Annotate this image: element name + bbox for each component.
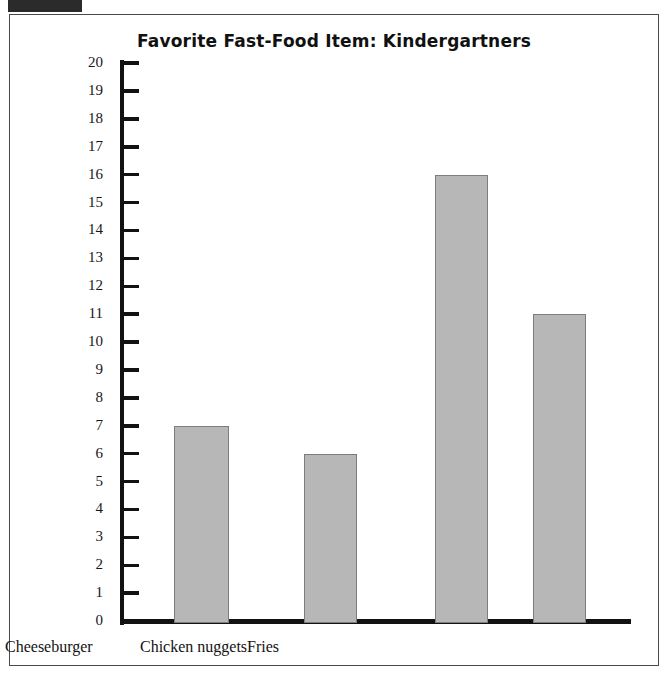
bar [435, 175, 488, 623]
y-tick-label: 16 [63, 167, 103, 182]
y-tick-label: 19 [63, 83, 103, 98]
y-tick-mark [124, 117, 139, 121]
y-tick-label: 5 [63, 474, 103, 489]
y-tick-mark [124, 508, 139, 512]
y-tick-mark [124, 201, 139, 205]
y-tick-mark [124, 285, 139, 289]
y-tick-mark [124, 480, 139, 484]
y-tick-label: 20 [63, 55, 103, 70]
y-tick-mark [124, 619, 139, 623]
y-tick-label: 6 [63, 446, 103, 461]
y-tick-label: 17 [63, 139, 103, 154]
y-tick-label: 15 [63, 195, 103, 210]
y-tick-label: 13 [63, 250, 103, 265]
bar [533, 314, 586, 623]
y-tick-mark [124, 173, 139, 177]
y-tick-label: 18 [63, 111, 103, 126]
y-tick-label: 4 [63, 501, 103, 516]
x-tick-label: Fries [247, 638, 279, 656]
y-tick-label: 9 [63, 362, 103, 377]
y-tick-mark [124, 536, 139, 540]
corner-tab-marker [8, 0, 82, 12]
y-tick-mark [124, 396, 139, 400]
y-tick-mark [124, 312, 139, 316]
y-tick-mark [124, 89, 139, 93]
y-tick-label: 10 [63, 334, 103, 349]
y-tick-mark [124, 424, 139, 428]
y-tick-mark [124, 368, 139, 372]
y-tick-label: 3 [63, 529, 103, 544]
y-tick-mark [124, 340, 139, 344]
y-tick-mark [124, 564, 139, 568]
x-tick-label: Chicken nuggets [140, 638, 247, 656]
y-tick-label: 1 [63, 585, 103, 600]
x-tick-label: Cheeseburger [5, 638, 93, 656]
y-tick-mark [124, 257, 139, 261]
chart-figure-frame: Favorite Fast-Food Item: Kindergartners … [9, 14, 659, 666]
y-tick-mark [124, 591, 139, 595]
y-tick-label: 7 [63, 418, 103, 433]
y-tick-label: 8 [63, 390, 103, 405]
y-tick-mark [124, 61, 139, 65]
bar [304, 454, 357, 623]
bar [174, 426, 229, 623]
y-tick-label: 11 [63, 306, 103, 321]
y-tick-mark [124, 145, 139, 149]
y-tick-label: 0 [63, 613, 103, 628]
y-tick-label: 12 [63, 278, 103, 293]
y-tick-mark [124, 452, 139, 456]
plot-area: 20191817161514131211109876543210 Hamburg… [10, 15, 660, 667]
y-tick-label: 14 [63, 222, 103, 237]
y-tick-mark [124, 229, 139, 233]
y-tick-label: 2 [63, 557, 103, 572]
